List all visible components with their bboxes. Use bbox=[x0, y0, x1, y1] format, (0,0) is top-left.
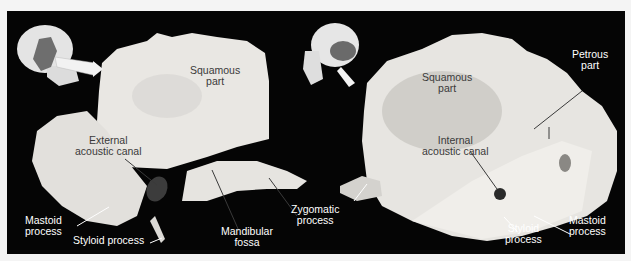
label-styloid-process-medial: Styloid process bbox=[505, 223, 542, 245]
label-text: part bbox=[572, 60, 608, 71]
label-mastoid-process-medial: Mastoid process bbox=[569, 215, 606, 237]
label-internal-acoustic-canal: Internal acoustic canal bbox=[422, 135, 489, 157]
label-text: acoustic canal bbox=[75, 146, 142, 157]
skull-lateral-icon bbox=[7, 11, 105, 89]
label-text: process bbox=[291, 215, 339, 226]
label-text: process bbox=[25, 226, 62, 237]
label-text: part bbox=[422, 83, 472, 94]
label-mandibular-fossa: Mandibular fossa bbox=[221, 226, 273, 248]
label-squamous-part-lateral: Squamous part bbox=[190, 65, 240, 87]
label-zygomatic-process: Zygomatic process bbox=[291, 204, 339, 226]
label-petrous-part: Petrous part bbox=[572, 49, 608, 71]
label-external-acoustic-canal: External acoustic canal bbox=[75, 135, 142, 157]
label-styloid-process-lateral: Styloid process bbox=[73, 235, 144, 246]
figure-frame: Squamous part External acoustic canal Ma… bbox=[7, 11, 625, 254]
medial-view-panel: Squamous part Petrous part Internal acou… bbox=[312, 11, 625, 254]
label-text: acoustic canal bbox=[422, 146, 489, 157]
skull-medial-icon bbox=[297, 11, 362, 89]
lateral-view-panel: Squamous part External acoustic canal Ma… bbox=[7, 11, 312, 254]
label-text: part bbox=[190, 76, 240, 87]
label-mastoid-process-lateral: Mastoid process bbox=[25, 215, 62, 237]
label-text: process bbox=[569, 226, 606, 237]
label-text: fossa bbox=[221, 237, 273, 248]
label-squamous-part-medial: Squamous part bbox=[422, 72, 472, 94]
label-text: process bbox=[505, 234, 542, 245]
